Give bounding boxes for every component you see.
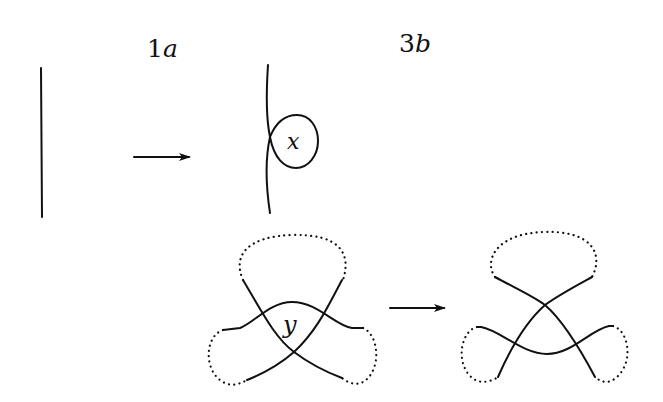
panel-1a-after: x [267, 65, 318, 213]
knot-move-diagram: 1a 3b x y [0, 0, 663, 402]
strand-1 [495, 277, 595, 377]
dotted-arc-right [342, 328, 376, 384]
dotted-arc-top [240, 235, 346, 280]
region-y-label: y [282, 311, 297, 339]
panel-1a-before [41, 68, 42, 217]
region-x-label: x [287, 129, 300, 154]
dotted-arc-left [209, 330, 247, 385]
move-label-1a: 1a [147, 34, 178, 63]
dotted-arc-right [595, 326, 627, 382]
dotted-arc-top [491, 232, 596, 277]
move-label-3b: 3b [399, 29, 431, 58]
straight-strand [41, 68, 42, 217]
panel-3b-after [462, 232, 628, 382]
strand-3 [477, 326, 613, 354]
strand-2 [498, 277, 592, 377]
dotted-arc-left [462, 327, 498, 382]
panel-3b-before: y [209, 235, 377, 385]
